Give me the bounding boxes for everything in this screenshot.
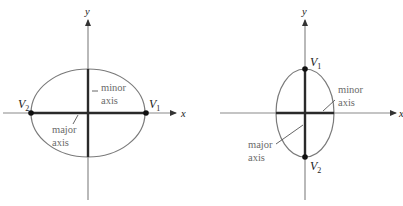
major-axis-label-line1: major <box>52 124 77 135</box>
major-axis-label-line2: axis <box>248 152 265 163</box>
vertex-v1-dot <box>302 66 308 72</box>
figure-horizontal-ellipse: x y V1 V2 minor axis major axis <box>3 6 186 200</box>
vertex-v1-label: V1 <box>310 55 321 71</box>
vertex-v2-label: V2 <box>18 97 29 113</box>
ellipse-diagrams: x y V1 V2 minor axis major axis x y V1 V… <box>0 0 403 206</box>
vertex-v1-dot <box>143 110 149 116</box>
vertex-v2-dot <box>302 154 308 160</box>
minor-axis-label-line1: minor <box>338 84 364 95</box>
major-axis-label-line1: major <box>248 139 273 150</box>
major-axis-label-line2: axis <box>52 137 69 148</box>
vertex-v1-label: V1 <box>149 97 160 113</box>
x-axis-label: x <box>398 108 403 119</box>
y-axis-label: y <box>301 6 307 17</box>
x-axis-label: x <box>180 108 186 119</box>
minor-axis-label-line2: axis <box>338 97 355 108</box>
minor-axis-label-line2: axis <box>101 95 118 106</box>
y-axis-label: y <box>84 6 90 17</box>
figure-vertical-ellipse: x y V1 V2 minor axis major axis <box>220 6 403 200</box>
vertex-v2-label: V2 <box>310 159 321 175</box>
major-axis-leader <box>73 115 78 124</box>
minor-axis-label-line1: minor <box>101 82 127 93</box>
